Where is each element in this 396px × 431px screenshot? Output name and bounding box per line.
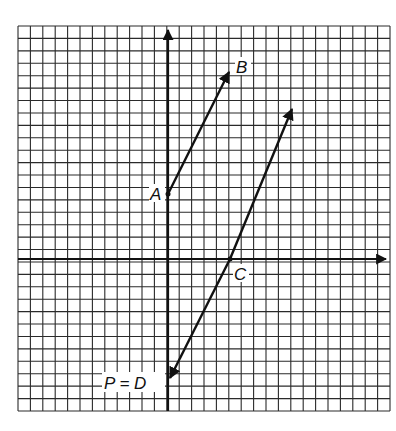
label-a: A (149, 185, 161, 204)
label-c: C (234, 265, 247, 284)
point-c (228, 257, 233, 262)
vector-a-to-b (168, 72, 229, 194)
coordinate-grid-diagram: A B C P = D (0, 0, 396, 431)
grid-lines (18, 26, 390, 411)
point-a (166, 192, 171, 197)
vector-c-to-upper (230, 109, 292, 259)
label-p-equals-d: P = D (104, 374, 146, 393)
label-b: B (236, 58, 247, 77)
